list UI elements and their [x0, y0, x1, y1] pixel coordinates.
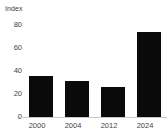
bar-chart-figure: Index 80 60 40 20 0 2000 2004 2012 2024	[0, 0, 168, 137]
x-axis-line	[19, 117, 167, 118]
plot-area	[25, 25, 166, 117]
y-tick-label-20: 20	[0, 90, 22, 98]
y-tick-label-80: 80	[0, 21, 22, 29]
bar-2000[interactable]	[29, 76, 53, 117]
bar-2024[interactable]	[137, 32, 161, 117]
x-tick-label-2024: 2024	[123, 121, 167, 130]
bar-2012[interactable]	[101, 87, 125, 117]
y-tick-label-40: 40	[0, 67, 22, 75]
bar-2004[interactable]	[65, 81, 89, 117]
y-axis-title: Index	[5, 4, 23, 13]
y-tick-label-60: 60	[0, 44, 22, 52]
